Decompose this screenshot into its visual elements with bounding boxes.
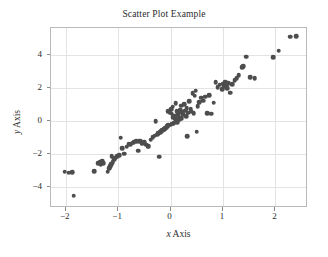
scatter-plot-figure: Scatter Plot Example −2−1012−4−2024 x Ax…: [0, 0, 328, 257]
scatter-point: [192, 93, 197, 98]
y-gridline: [51, 187, 306, 188]
scatter-point: [122, 151, 127, 156]
scatter-point: [244, 54, 249, 59]
scatter-point: [209, 112, 214, 117]
scatter-point: [207, 93, 212, 98]
scatter-point: [271, 55, 276, 60]
x-tick-label: 1: [202, 211, 242, 221]
y-gridline: [51, 154, 306, 155]
scatter-point: [146, 144, 151, 149]
y-tick-mark: [47, 54, 51, 55]
y-gridline: [51, 88, 306, 89]
x-axis-title: x Axis: [50, 229, 307, 239]
scatter-point: [236, 73, 241, 78]
chart-title: Scatter Plot Example: [0, 9, 328, 19]
scatter-point: [191, 111, 196, 116]
scatter-point: [117, 153, 122, 158]
scatter-point: [193, 88, 198, 93]
y-axis-title-text: Axis: [12, 110, 22, 130]
x-tick-mark: [170, 207, 171, 211]
scatter-point: [136, 148, 141, 153]
scatter-point: [174, 101, 179, 106]
y-tick-mark: [47, 87, 51, 88]
y-axis-title: y Axis: [12, 77, 22, 167]
plot-area: [50, 27, 307, 207]
y-tick-mark: [47, 153, 51, 154]
scatter-point: [185, 134, 190, 139]
x-tick-label: 2: [254, 211, 294, 221]
x-tick-mark: [222, 207, 223, 211]
y-tick-label: −4: [0, 181, 42, 191]
x-tick-mark: [117, 207, 118, 211]
x-axis-title-text: Axis: [171, 229, 191, 239]
x-tick-label: −2: [45, 211, 85, 221]
scatter-point: [70, 170, 75, 175]
y-axis-variable: y: [12, 130, 22, 134]
scatter-point: [92, 169, 97, 174]
scatter-point: [294, 34, 299, 39]
x-tick-label: 0: [150, 211, 190, 221]
scatter-point: [154, 119, 159, 124]
scatter-point: [118, 136, 123, 141]
scatter-point: [195, 129, 200, 134]
x-tick-mark: [274, 207, 275, 211]
scatter-point: [241, 64, 246, 69]
scatter-point: [225, 86, 230, 91]
scatter-point: [252, 76, 257, 81]
scatter-point: [71, 193, 76, 198]
scatter-point: [228, 91, 233, 96]
y-gridline: [51, 55, 306, 56]
scatter-point: [288, 34, 293, 39]
scatter-point: [276, 48, 281, 53]
scatter-point: [157, 155, 162, 160]
scatter-point: [211, 101, 216, 106]
x-tick-label: −1: [97, 211, 137, 221]
scatter-point: [101, 161, 106, 166]
x-tick-mark: [65, 207, 66, 211]
y-tick-label: 4: [0, 49, 42, 59]
y-tick-mark: [47, 120, 51, 121]
y-tick-mark: [47, 186, 51, 187]
scatter-point: [187, 99, 192, 104]
